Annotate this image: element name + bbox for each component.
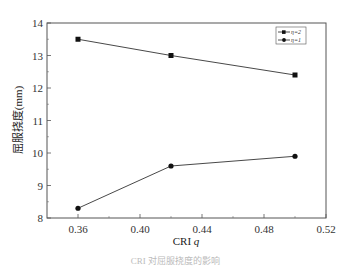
x-axis-ticks: 0.360.400.440.480.52	[68, 214, 335, 235]
data-point	[168, 163, 173, 168]
data-point	[75, 206, 80, 211]
series-line-0	[78, 39, 295, 75]
square-marker-icon	[282, 30, 286, 34]
y-tick-label: 12	[32, 82, 43, 94]
data-point	[76, 37, 81, 42]
series-line-1	[78, 156, 295, 208]
x-tick-label: 0.36	[68, 223, 88, 235]
x-axis-title: CRI q	[173, 235, 200, 247]
x-tick-label: 0.48	[254, 223, 274, 235]
y-tick-label: 8	[38, 212, 44, 224]
data-point	[293, 73, 298, 78]
figure-caption: CRI 对屈服挠度的影响	[0, 254, 351, 267]
legend-label-series-1: η=1	[291, 37, 301, 43]
legend-label-series-0: η=2	[291, 29, 301, 35]
data-point	[292, 154, 297, 159]
y-axis-title: 屈服挠度(mm)	[11, 85, 25, 154]
y-axis-ticks: 891011121314	[32, 17, 51, 224]
x-tick-label: 0.52	[316, 223, 335, 235]
circle-marker-icon	[282, 38, 286, 42]
x-tick-label: 0.44	[192, 223, 212, 235]
y-tick-label: 9	[38, 180, 44, 192]
y-tick-label: 10	[32, 147, 44, 159]
data-point	[169, 53, 174, 58]
y-tick-label: 13	[32, 50, 44, 62]
legend: η=2 η=1	[276, 27, 306, 44]
y-tick-label: 14	[32, 17, 44, 29]
plot-area-frame	[47, 23, 326, 218]
x-tick-label: 0.40	[130, 223, 150, 235]
data-series	[75, 37, 297, 211]
y-tick-label: 11	[32, 115, 43, 127]
